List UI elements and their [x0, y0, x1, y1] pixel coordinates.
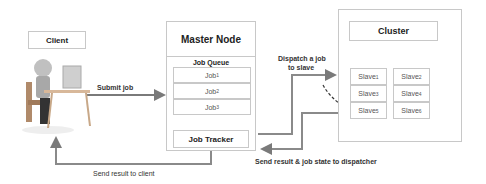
dispatch-arrow: [258, 75, 335, 134]
slave-node: Slave6: [393, 102, 430, 119]
client-label: Client: [46, 36, 68, 45]
send-result-dispatcher-label: Send result & job state to dispatcher: [255, 158, 377, 165]
job-item: Job1: [173, 67, 251, 83]
job-tracker: Job Tracker: [173, 130, 249, 148]
slave-node: Slave3: [350, 85, 387, 102]
master-node: Master Node Job Queue Job1Job2Job3 Job T…: [166, 21, 256, 151]
job-queue-label: Job Queue: [167, 57, 255, 67]
dispatch-label-1: Dispatch a job: [278, 55, 326, 62]
cluster-title-label: Cluster: [378, 26, 409, 36]
result-to-dispatcher-arrow: [262, 113, 349, 149]
cluster: Cluster Slave1Slave2Slave3Slave4Slave5Sl…: [338, 9, 462, 142]
person-at-computer-icon: [18, 52, 92, 134]
slave-node: Slave2: [393, 68, 430, 85]
submit-job-label: Submit job: [97, 84, 133, 91]
cluster-title: Cluster: [349, 21, 438, 41]
send-result-client-label: Send result to client: [93, 170, 154, 177]
client-box: Client: [28, 31, 86, 49]
dispatch-label-2: to slave: [288, 64, 314, 71]
job-tracker-label: Job Tracker: [189, 135, 234, 144]
slave-node: Slave1: [350, 68, 387, 85]
slave-node: Slave5: [350, 102, 387, 119]
slave-node: Slave4: [393, 85, 430, 102]
master-node-title: Master Node: [167, 22, 255, 57]
job-item: Job3: [173, 99, 251, 115]
job-item: Job2: [173, 83, 251, 99]
